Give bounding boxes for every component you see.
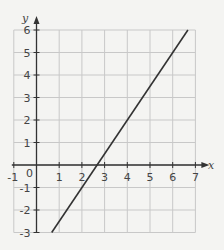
- x-tick-label: -1: [7, 171, 18, 184]
- x-tick-label: 1: [56, 171, 63, 184]
- y-tick-label: 3: [24, 92, 31, 105]
- y-tick-label: -3: [20, 227, 31, 240]
- data-line: [52, 30, 188, 233]
- y-tick-label: 1: [24, 137, 31, 150]
- y-tick-label: 5: [24, 47, 31, 60]
- y-tick-label: -2: [20, 204, 31, 217]
- axes: [12, 16, 210, 233]
- y-tick-label: -1: [20, 182, 31, 195]
- data-series: [52, 30, 188, 233]
- x-tick-label: 0: [26, 167, 33, 180]
- x-tick-label: 4: [124, 171, 131, 184]
- line-chart: -101234567-3-2-1123456 x y: [0, 0, 224, 250]
- x-axis-label: x: [208, 159, 215, 172]
- y-tick-label: 4: [24, 69, 31, 82]
- y-tick-label: 6: [24, 24, 31, 37]
- y-axis-arrow-icon: [34, 16, 40, 24]
- y-tick-label: 2: [24, 114, 31, 127]
- x-tick-label: 3: [101, 171, 108, 184]
- x-tick-label: 5: [147, 171, 154, 184]
- x-tick-label: 7: [192, 171, 199, 184]
- x-tick-label: 2: [78, 171, 85, 184]
- y-axis-label: y: [21, 12, 29, 25]
- x-tick-label: 6: [169, 171, 176, 184]
